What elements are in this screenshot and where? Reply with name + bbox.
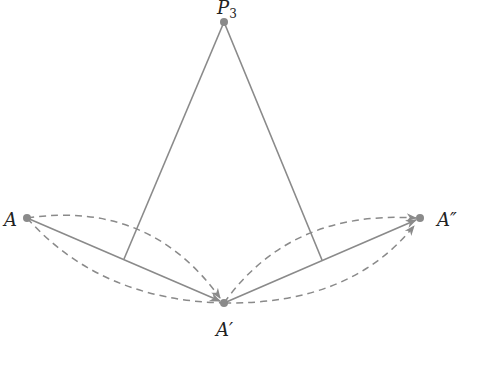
perpendicular-left: [124, 22, 224, 259]
point-a-double-prime: [416, 214, 424, 222]
point-a: [23, 214, 31, 222]
reflection-diagram: P3 A A′ A″: [0, 0, 485, 371]
point-a-prime: [220, 299, 228, 307]
point-p3: [220, 18, 228, 26]
arc-upper-left: [27, 215, 220, 298]
segment-a-aprime: [27, 218, 220, 301]
label-a-prime: A′: [214, 319, 233, 340]
label-a: A: [2, 209, 17, 230]
perpendicular-right: [224, 22, 322, 260]
label-p3: P3: [216, 0, 237, 21]
label-a-double-prime: A″: [435, 209, 457, 230]
